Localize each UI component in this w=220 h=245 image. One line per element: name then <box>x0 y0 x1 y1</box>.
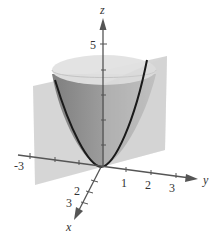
x-axis-arrow-icon <box>74 207 83 220</box>
y-tick-3: 3 <box>169 181 175 195</box>
x-tick-3: 3 <box>66 196 72 210</box>
y-tick-neg3: -3 <box>14 159 24 173</box>
z-tick-5: 5 <box>90 38 96 52</box>
x-axis <box>78 167 101 212</box>
z-axis-label: z <box>99 3 105 17</box>
y-tick-2: 2 <box>145 178 151 192</box>
y-tick-1: 1 <box>121 176 127 190</box>
z-axis-arrow-icon <box>100 18 107 30</box>
x-axis-label: x <box>65 220 72 234</box>
y-axis-label: y <box>202 173 209 187</box>
y-axis-arrow-icon <box>185 174 198 182</box>
paraboloid-figure: z 5 -3 1 2 3 y 2 3 x <box>0 0 220 245</box>
x-tick-2: 2 <box>74 184 80 198</box>
